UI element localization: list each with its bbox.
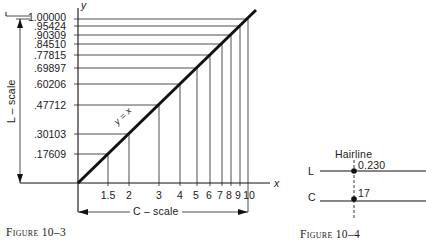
x-tick-label: 6 <box>206 190 212 201</box>
y-axis-label: y <box>81 0 86 11</box>
y-tick-label: .17609 <box>34 149 66 160</box>
hairline-label: Hairline <box>335 149 372 160</box>
x-tick-label: 9 <box>235 190 241 201</box>
c-scale-label: C – scale <box>130 206 182 217</box>
c-value-label: 17 <box>358 188 370 199</box>
y-tick-label: .60206 <box>34 79 66 90</box>
l-scale-label: L – scale <box>6 78 17 125</box>
y-equals-x-line <box>78 10 256 183</box>
y-tick-label: .30103 <box>34 129 66 140</box>
x-tick-label: 5 <box>193 190 199 201</box>
x-axis-label: x <box>274 178 279 189</box>
x-tick-label: 8 <box>226 190 232 201</box>
c-scale-name: C <box>308 192 316 203</box>
y-tick-label: .47712 <box>34 100 66 111</box>
x-tick-label: 3 <box>156 190 162 201</box>
figure-10-4-caption: Figure 10–4 <box>300 228 360 240</box>
l-scale-name: L <box>308 166 314 177</box>
y-tick-label: .77815 <box>34 50 66 61</box>
y-tick-label: .69897 <box>34 63 66 74</box>
l-value-label: 0.230 <box>358 160 385 171</box>
x-tick-label: 4 <box>177 190 183 201</box>
figure-10-3-caption: Figure 10–3 <box>6 226 66 238</box>
x-tick-label: 10 <box>243 190 255 201</box>
y-tick-label: 1.00000 <box>28 12 66 23</box>
x-tick-label: 7 <box>217 190 223 201</box>
x-tick-label: 1.5 <box>101 190 116 201</box>
x-tick-label: 2 <box>126 190 132 201</box>
